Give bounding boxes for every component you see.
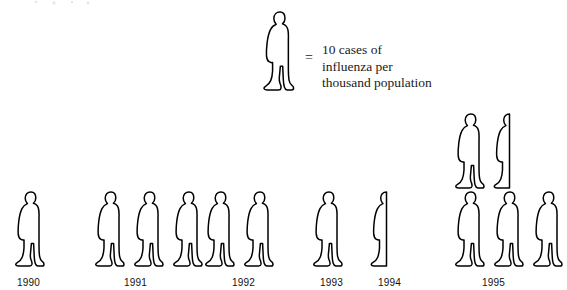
person-icon xyxy=(202,190,242,268)
person-icon xyxy=(131,190,171,268)
year-label-1991: 1991 xyxy=(124,277,147,288)
year-label-1993: 1993 xyxy=(320,277,343,288)
legend-line-1: 10 cases of xyxy=(322,42,432,59)
person-icon xyxy=(530,190,567,268)
figure-row xyxy=(452,112,511,190)
year-label-1990: 1990 xyxy=(17,277,40,288)
legend-line-2: influenza per xyxy=(322,59,432,76)
person-icon xyxy=(491,190,531,268)
year-label-1995: 1995 xyxy=(482,277,505,288)
legend-person-icon xyxy=(258,10,304,92)
half-person-icon xyxy=(491,112,512,190)
year-label-1992: 1992 xyxy=(232,277,255,288)
person-icon xyxy=(452,190,492,268)
figure-stack xyxy=(202,190,280,268)
person-icon xyxy=(12,190,52,268)
figure-stack xyxy=(92,190,209,268)
figure-row xyxy=(92,190,209,268)
figure-row xyxy=(452,190,567,268)
legend-line-3: thousand population xyxy=(322,75,432,92)
legend-equals-sign: = xyxy=(305,51,313,65)
figure-stack xyxy=(452,112,567,268)
figure-stack xyxy=(368,190,388,268)
figure-row xyxy=(12,190,51,268)
person-icon xyxy=(310,190,350,268)
person-icon xyxy=(92,190,132,268)
legend-text: 10 cases of influenza per thousand popul… xyxy=(322,42,432,92)
person-icon xyxy=(452,112,492,190)
year-label-1994: 1994 xyxy=(378,277,401,288)
scan-artifact xyxy=(28,0,98,6)
person-icon xyxy=(241,190,281,268)
figure-stack xyxy=(12,190,51,268)
figure-stack xyxy=(310,190,349,268)
figure-row xyxy=(368,190,388,268)
figure-row xyxy=(202,190,280,268)
half-person-icon xyxy=(368,190,389,268)
chart-legend: = 10 cases of influenza per thousand pop… xyxy=(258,10,432,92)
figure-row xyxy=(310,190,349,268)
